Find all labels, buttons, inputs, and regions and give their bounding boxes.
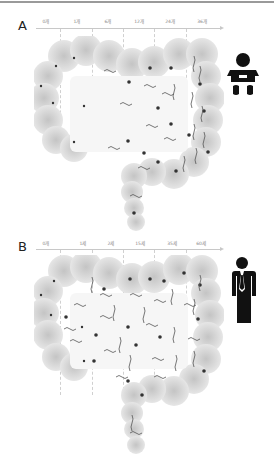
panel-a: A 0개 1개 6개 12개 24개 36개 xyxy=(0,0,274,235)
time-axis xyxy=(36,249,222,250)
panel-b: B 0개 1세 2세 15세 35세 60세 xyxy=(0,235,274,457)
panel-label: B xyxy=(18,239,27,254)
baby-icon xyxy=(226,52,260,98)
timepoint-label: 60세 xyxy=(196,240,206,246)
timepoint-label: 0개 xyxy=(43,240,50,246)
timepoint-label: 2세 xyxy=(108,240,115,246)
adult-man-icon xyxy=(228,257,256,325)
colon-diagram xyxy=(34,255,224,455)
timepoint-label: 15세 xyxy=(135,240,145,246)
timepoint-label: 6개 xyxy=(105,18,112,24)
panel-label: A xyxy=(18,18,27,33)
colon-diagram xyxy=(34,36,224,231)
timepoint-label: 12개 xyxy=(134,18,144,24)
timepoint-label: 24개 xyxy=(165,18,175,24)
timepoint-label: 36개 xyxy=(197,18,207,24)
time-axis xyxy=(36,28,222,29)
timepoint-label: 0개 xyxy=(43,18,50,24)
timepoint-label: 35세 xyxy=(167,240,177,246)
timepoint-label: 1개 xyxy=(74,18,81,24)
timepoint-label: 1세 xyxy=(80,240,87,246)
